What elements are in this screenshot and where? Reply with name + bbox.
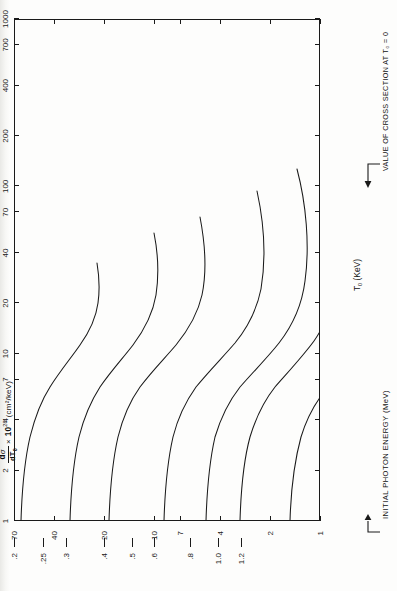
curve-label-tick [190,538,191,547]
x-tick [315,470,320,471]
y-tick [220,19,221,24]
y-tick [220,516,221,521]
cross-section-arrow [356,161,382,195]
y-tick-label: 7 [175,531,184,535]
x-tick [14,135,19,136]
x-tick [315,419,320,420]
x-tick-label: 700 [1,38,10,51]
y-tick [320,516,321,521]
x-tick [14,44,19,45]
x-tick-label: 70 [1,208,10,217]
x-tick-label: 200 [1,129,10,142]
curve-label-tick [154,538,155,547]
curve-label: .4 [100,553,109,560]
x-tick [315,353,320,354]
x-tick [14,185,19,186]
curve-label-tick [66,538,67,547]
curve-label-tick [43,538,44,547]
x-tick [315,379,320,380]
x-tick-label: 2 [1,468,10,472]
x-tick [14,252,19,253]
y-tick [270,516,271,521]
title-units: (cm²/keV) [4,381,13,417]
x-tick-label: 4 [1,418,10,422]
curve-axis-caption: INITIAL PHOTON ENERGY (MeV) [381,390,390,519]
x-axis-caption-units: (KeV) [352,259,362,280]
curve-label: .8 [185,553,194,560]
x-tick-label: 20 [1,299,10,308]
curve-label: .25 [38,553,47,564]
x-tick [14,379,19,380]
x-tick [14,302,19,303]
x-tick [315,252,320,253]
cross-section-caption: VALUE OF CROSS SECTION AT T₀ = 0 [381,32,390,171]
curve-label: 1.0 [214,553,223,564]
y-tick [154,19,155,24]
y-tick [14,19,15,24]
curve-label-tick [132,538,133,547]
x-tick-label: 400 [1,79,10,92]
y-tick [270,19,271,24]
y-tick-label: 4 [216,531,225,535]
x-axis-caption: T0 (KeV) [352,259,363,291]
x-tick [315,44,320,45]
x-tick [315,302,320,303]
x-tick-label: 1 [1,519,10,523]
curve-0p2 [21,263,99,521]
y-tick [180,516,181,521]
y-tick [14,516,15,521]
y-tick [180,19,181,24]
x-tick [315,185,320,186]
x-tick [315,211,320,212]
initial-photon-energy-bracket [356,505,382,535]
curve-label: .6 [150,553,159,560]
curve-label-tick [14,538,15,547]
x-tick [14,211,19,212]
curve-0p25 [70,233,158,521]
x-tick-label: 1000 [1,10,10,28]
y-tick [104,516,105,521]
curve-label-tick [241,538,242,547]
curve-0p5 [206,169,307,521]
x-axis-caption-subscript: 0 [357,283,363,286]
curve-0p8 [290,129,320,521]
curve-0p6 [240,151,320,521]
curve-0p3 [109,217,205,521]
x-tick [14,470,19,471]
x-tick-label: 7 [1,377,10,381]
x-axis-caption-symbol: T [352,286,362,291]
figure-page: dσ dT0 × 1028 (cm²/keV) [0,0,397,591]
x-tick-label: 10 [1,349,10,358]
x-tick-label: 100 [1,180,10,193]
y-tick [54,516,55,521]
title-times: × [4,439,13,444]
x-tick [14,419,19,420]
x-tick [315,135,320,136]
curve-0p4 [164,191,264,521]
y-tick-label: 40 [50,531,59,540]
curve-group [14,19,320,521]
x-tick-label: 40 [1,248,10,257]
rotated-figure-stage: dσ dT0 × 1028 (cm²/keV) [0,0,397,591]
y-tick [154,516,155,521]
curve-label-tick [218,538,219,547]
curve-label: 1.2 [236,553,245,564]
x-tick [315,85,320,86]
x-tick [14,353,19,354]
y-tick-label: 2 [266,531,275,535]
y-tick [320,19,321,24]
curve-label: .3 [62,553,71,560]
curve-label: .5 [128,553,137,560]
x-tick [14,85,19,86]
y-tick-label: 1 [316,531,325,535]
y-tick [54,19,55,24]
curve-label: .2 [10,553,19,560]
y-tick [104,19,105,24]
title-factor-base: 10 [4,427,13,437]
